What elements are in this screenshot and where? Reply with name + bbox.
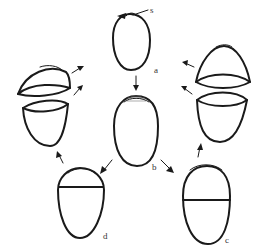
- label-d: d: [103, 232, 108, 241]
- label-s: s: [150, 6, 154, 15]
- open-left-cup: [23, 101, 68, 146]
- arrow-open-right-cup: [181, 86, 192, 94]
- open-left-lid: [18, 66, 70, 96]
- arrow-c-to-open-right: [197, 143, 203, 157]
- open-right-dome: [196, 45, 250, 88]
- stage-b-oval: [114, 96, 158, 166]
- stage-a-oval: [113, 13, 150, 70]
- arrow-b-to-d: [100, 160, 112, 174]
- arrow-d-to-open-left: [56, 151, 63, 163]
- stage-c-oval: [183, 165, 230, 244]
- label-b: b: [152, 163, 157, 172]
- stage-d-oval: [58, 168, 104, 238]
- arrow-open-left-lid: [72, 66, 84, 73]
- process-diagram: [0, 0, 262, 252]
- arrow-open-left-cup: [74, 85, 83, 95]
- label-c: c: [225, 236, 229, 245]
- arrow-b-to-c: [161, 160, 174, 173]
- arrow-a-to-b: [133, 76, 139, 91]
- open-right-cup: [197, 93, 247, 143]
- label-a: a: [154, 66, 158, 75]
- arrow-open-right-dome: [182, 60, 194, 67]
